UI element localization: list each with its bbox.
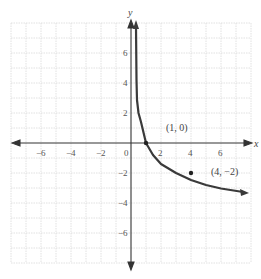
tick-x-neg4: −4 <box>66 148 76 158</box>
tick-y-2: 2 <box>123 108 128 118</box>
graph: y x −6 −4 −2 0 2 4 6 6 4 2 −2 −4 −6 (1, … <box>0 0 261 279</box>
x-axis <box>12 140 252 146</box>
tick-x-2: 2 <box>158 148 163 158</box>
y-axis <box>128 20 134 270</box>
y-axis-label: y <box>127 7 133 18</box>
tick-y-4: 4 <box>123 78 128 88</box>
curve-arrow-up <box>133 20 139 29</box>
x-tick-labels: −6 −4 −2 0 2 4 6 <box>36 148 223 158</box>
point-label-1-0: (1, 0) <box>166 122 188 134</box>
tick-x-6: 6 <box>218 148 223 158</box>
point-4-neg2 <box>189 171 193 175</box>
tick-x-neg6: −6 <box>36 148 46 158</box>
tick-y-6: 6 <box>123 48 128 58</box>
tick-x-0: 0 <box>124 148 129 158</box>
tick-y-neg4: −4 <box>118 198 128 208</box>
tick-y-neg6: −6 <box>118 228 128 238</box>
tick-x-neg2: −2 <box>96 148 106 158</box>
point-1-0 <box>144 141 148 145</box>
curve-arrow-right <box>240 189 249 196</box>
point-label-4-neg2: (4, −2) <box>211 166 238 178</box>
tick-y-neg2: −2 <box>118 168 128 178</box>
tick-x-4: 4 <box>188 148 193 158</box>
x-axis-label: x <box>253 138 259 149</box>
